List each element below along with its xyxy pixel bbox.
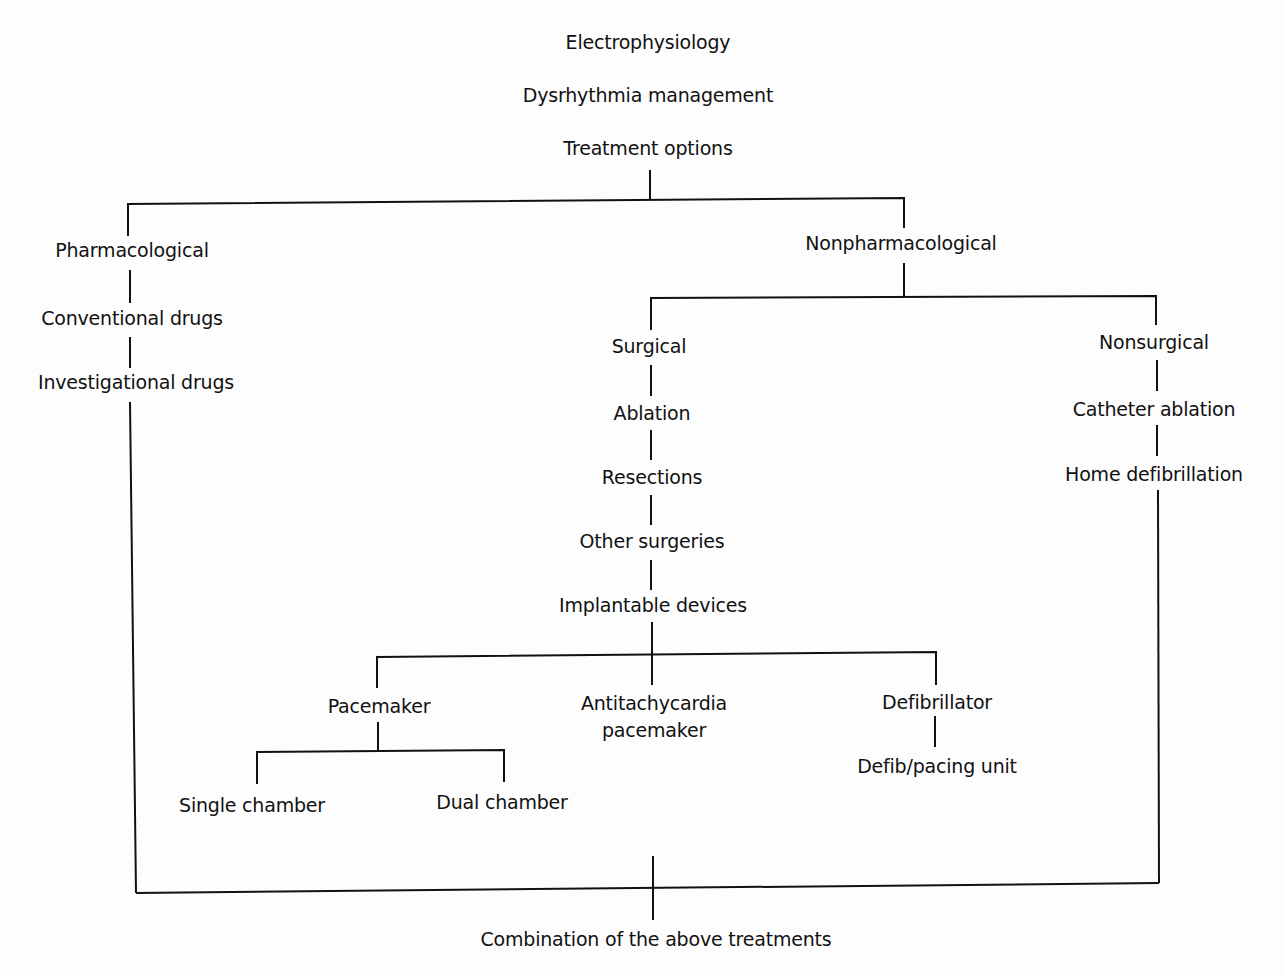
node-resections: Resections (602, 466, 702, 488)
node-ablation: Ablation (614, 402, 691, 424)
node-antitachycardia-line1: Antitachycardia (581, 692, 727, 714)
node-nonsurgical: Nonsurgical (1099, 331, 1209, 353)
node-combination: Combination of the above treatments (481, 928, 832, 950)
node-conventional-drugs: Conventional drugs (41, 307, 223, 329)
node-investigational-drugs: Investigational drugs (38, 371, 234, 393)
node-single-chamber: Single chamber (179, 794, 325, 816)
node-pacemaker: Pacemaker (328, 695, 431, 717)
node-other-surgeries: Other surgeries (580, 530, 725, 552)
title-dysrhythmia-management: Dysrhythmia management (523, 84, 773, 106)
node-implantable-devices: Implantable devices (559, 594, 747, 616)
node-surgical: Surgical (612, 335, 687, 357)
node-catheter-ablation: Catheter ablation (1073, 398, 1236, 420)
title-treatment-options: Treatment options (563, 137, 732, 159)
node-defib-pacing-unit: Defib/pacing unit (857, 755, 1017, 777)
node-defibrillator: Defibrillator (882, 691, 992, 713)
node-nonpharmacological: Nonpharmacological (805, 232, 996, 254)
title-electrophysiology: Electrophysiology (566, 31, 731, 53)
node-pharmacological: Pharmacological (55, 239, 208, 261)
node-antitachycardia-line2: pacemaker (602, 719, 706, 741)
node-dual-chamber: Dual chamber (436, 791, 567, 813)
node-home-defibrillation: Home defibrillation (1065, 463, 1243, 485)
